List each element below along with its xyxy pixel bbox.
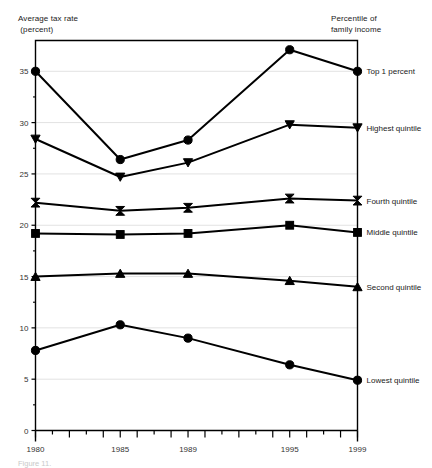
series-polyline [36,50,358,160]
y-tick-label: 15 [20,273,29,282]
data-point-circle [116,321,124,329]
y-tick-label: 10 [20,324,29,333]
series-label: Highest quintile [367,124,422,133]
series-label: Second quintile [367,283,422,292]
figure-footnote: Figure 11. [18,459,51,468]
series-polyline [36,325,358,380]
data-point-circle [116,155,124,163]
data-point-square [32,230,40,238]
data-point-triangle-down [31,135,40,143]
x-tick-label: 1989 [179,445,197,454]
x-axis-ticks [36,431,358,442]
series-label: Middle quintile [367,228,419,237]
data-point-square [286,221,294,229]
y-axis-tick-labels: 05101520253035 [20,67,29,435]
y-tick-label: 35 [20,67,29,76]
series-labels-group: Top 1 percentHighest quintileFourth quin… [367,67,422,385]
y-tick-label: 25 [20,170,29,179]
series-line [31,46,361,164]
plot-frame [36,41,358,431]
x-tick-label: 1995 [281,445,299,454]
data-point-square [184,230,192,238]
data-point-square [354,229,362,237]
series-label: Fourth quintile [367,197,418,206]
series-line [31,269,362,291]
series-polyline [36,273,358,286]
y-tick-label: 0 [24,427,29,436]
data-point-circle [286,361,294,369]
series-label: Top 1 percent [367,67,416,76]
series-line [32,221,362,238]
y-tick-label: 5 [24,375,29,384]
series-line [31,321,361,385]
data-point-square [116,231,124,239]
x-tick-label: 1999 [349,445,367,454]
data-point-circle [353,376,361,384]
series-polyline [36,199,358,211]
y-tick-label: 20 [20,221,29,230]
axes-group [36,41,358,431]
data-point-circle [31,346,39,354]
series-polyline [36,225,358,234]
series-line [31,121,362,182]
data-point-circle [31,67,39,75]
gridlines-group [36,71,358,379]
data-point-circle [184,334,192,342]
x-tick-label: 1985 [111,445,129,454]
series-label: Lowest quintile [367,376,420,385]
y-tick-label: 30 [20,119,29,128]
x-axis-tick-labels: 19801985198919951999 [27,445,367,454]
x-tick-label: 1980 [27,445,45,454]
data-point-circle [353,67,361,75]
series-line [31,194,362,215]
data-point-circle [184,136,192,144]
series-group [31,46,362,385]
data-point-circle [286,46,294,54]
